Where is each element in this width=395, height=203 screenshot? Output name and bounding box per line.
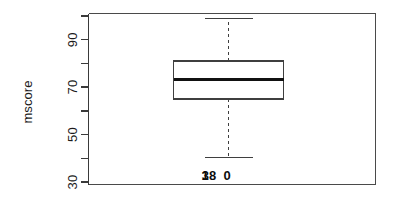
y-tick-label-50: 50 — [65, 127, 80, 142]
boxplot-canvas: 90 70 50 30 mscore 1 38 0 — [0, 0, 395, 203]
x-label-primary: 38 — [202, 168, 216, 183]
y-axis-tick-labels: 90 70 50 30 — [65, 32, 80, 189]
y-tick-label-70: 70 — [65, 80, 80, 95]
box — [174, 61, 284, 99]
y-tick-label-90: 90 — [65, 32, 80, 47]
x-axis-labels: 1 38 0 — [201, 168, 230, 183]
y-axis-ticks — [81, 16, 89, 182]
x-label-trailing: 0 — [223, 168, 230, 183]
svg-text:mscore: mscore — [20, 80, 35, 123]
y-axis-title: mscore — [20, 80, 35, 123]
y-tick-label-30: 30 — [65, 175, 80, 190]
boxplot-figure: 90 70 50 30 mscore 1 38 0 — [0, 0, 395, 203]
